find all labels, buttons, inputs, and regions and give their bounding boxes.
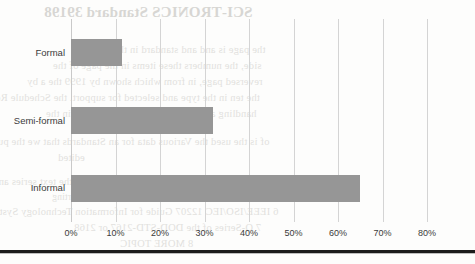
bar	[71, 39, 122, 66]
gridline	[427, 19, 428, 222]
gridline	[383, 19, 384, 222]
y-axis-tick-label: Formal	[0, 47, 65, 58]
y-axis-tick-label: Semi-formal	[0, 115, 65, 126]
y-axis-tick-label: Informal	[0, 182, 65, 193]
x-axis-tick-label: 60%	[329, 228, 347, 238]
x-axis-tick-label: 40%	[240, 228, 258, 238]
x-axis-tick-label: 10%	[106, 228, 124, 238]
x-axis-tick-label: 30%	[195, 228, 213, 238]
plot-area	[71, 19, 427, 222]
x-axis-tick-label: 70%	[373, 228, 391, 238]
x-axis-tick-label: 80%	[418, 228, 436, 238]
bar	[71, 107, 213, 134]
x-axis-tick-label: 20%	[151, 228, 169, 238]
bar-chart: FormalSemi-formalInformal 0%10%20%30%40%…	[0, 0, 475, 264]
x-axis-tick-label: 0%	[64, 228, 77, 238]
chart-page: SCI-TRONICS Standard 39198 the page is a…	[0, 0, 475, 264]
x-axis-tick-label: 50%	[284, 228, 302, 238]
page-bottom-rule-shadow	[0, 253, 475, 254]
bar	[71, 175, 360, 202]
